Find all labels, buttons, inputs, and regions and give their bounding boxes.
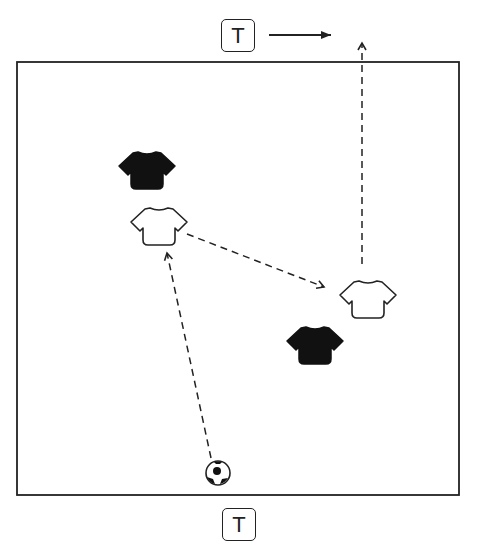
white-shirt-icon (340, 281, 396, 318)
white-shirt-icon (131, 208, 187, 245)
pass-arrow-from-ball (167, 253, 211, 458)
black-shirt-icon (119, 152, 175, 189)
pass-arrow-to-attacker (187, 234, 324, 287)
target-box-bottom: T (222, 508, 256, 541)
soccer-ball-icon (206, 461, 230, 485)
black-shirt-icon (287, 327, 343, 364)
pitch-boundary (17, 62, 459, 495)
drill-diagram: T T (0, 0, 478, 550)
target-box-top: T (221, 19, 255, 52)
